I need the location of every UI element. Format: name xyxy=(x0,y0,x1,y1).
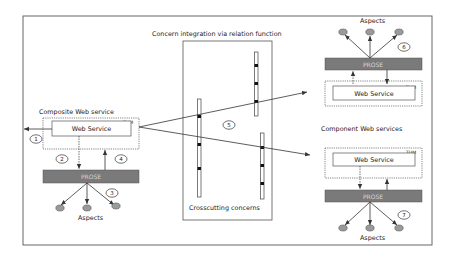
aspect-icon xyxy=(56,205,64,211)
concern-bar-right-top xyxy=(255,52,259,116)
diagram-canvas: Concern integration via relation functio… xyxy=(0,0,457,256)
svg-text:PROSE: PROSE xyxy=(363,193,383,200)
aspect-icon xyxy=(395,29,403,35)
svg-text:PROSE: PROSE xyxy=(81,173,101,180)
relation-arrow-bottom xyxy=(139,127,310,155)
step-3-badge: 3 xyxy=(106,189,118,197)
svg-text:1: 1 xyxy=(34,136,38,142)
component-top-aspects-label: Aspects xyxy=(360,17,386,25)
svg-text:4: 4 xyxy=(119,156,123,162)
step-2-badge: 2 xyxy=(56,155,68,163)
step-1-badge: 1 xyxy=(30,135,42,143)
svg-text:Web Service: Web Service xyxy=(354,156,394,164)
component-services-label: Component Web services xyxy=(321,125,403,133)
component-bottom-prose-box[interactable]: PROSE xyxy=(325,190,422,202)
aspect-icon xyxy=(395,225,403,231)
svg-text:PROSE: PROSE xyxy=(363,61,383,68)
step-6-badge: 6 xyxy=(398,43,410,51)
svg-text:2: 2 xyxy=(60,156,64,162)
svg-text:Web Service: Web Service xyxy=(72,125,112,133)
aspect-icon xyxy=(339,29,347,35)
step-7-badge: 7 xyxy=(398,211,410,219)
svg-text:Web Service: Web Service xyxy=(354,90,394,98)
composite-label: Composite Web service xyxy=(39,108,114,116)
concern-bar-right-bottom xyxy=(261,133,265,199)
step-4-badge: 4 xyxy=(115,155,127,163)
composite-prose-box[interactable]: PROSE xyxy=(43,170,139,183)
component-bottom-aspects-label: Aspects xyxy=(360,234,386,242)
composite-web-service-box[interactable]: Web Service xyxy=(52,121,131,136)
crosscutting-box xyxy=(183,41,272,220)
component-top-aspects-tree xyxy=(339,29,403,58)
step-5-badge: 5 xyxy=(223,121,235,129)
svg-text:3: 3 xyxy=(110,190,114,196)
component-bottom-web-service-box[interactable]: Web Service xyxy=(333,153,415,166)
crosscutting-label: Crosscutting concerns xyxy=(189,204,260,212)
diagram-title: Concern integration via relation functio… xyxy=(152,30,282,38)
aspect-icon xyxy=(83,205,91,211)
component-top-prose-box[interactable]: PROSE xyxy=(325,58,422,70)
svg-text:5: 5 xyxy=(227,122,231,128)
aspect-icon xyxy=(112,203,120,209)
composite-aspects-label: Aspects xyxy=(78,214,104,222)
relation-arrow-top xyxy=(139,92,307,127)
component-bottom-aspects-tree xyxy=(339,202,403,231)
aspect-icon xyxy=(366,29,374,35)
aspect-icon xyxy=(339,225,347,231)
aspect-icon xyxy=(366,225,374,231)
component-top-web-service-box[interactable]: Web Service xyxy=(333,86,415,100)
concern-bar-left xyxy=(198,99,202,197)
svg-text:7: 7 xyxy=(402,212,406,218)
svg-text:6: 6 xyxy=(402,44,406,50)
